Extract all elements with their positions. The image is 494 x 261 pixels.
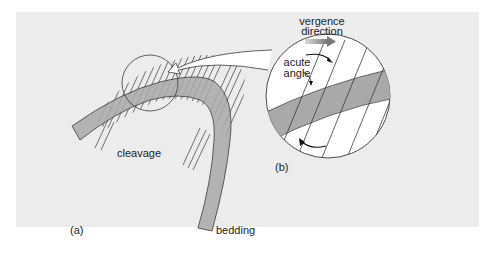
- label-direction: direction: [301, 25, 343, 37]
- fold-cleavage-diagram: vergence direction acute angle cleavage …: [0, 0, 494, 261]
- label-panel-a: (a): [70, 224, 83, 236]
- label-angle: angle: [284, 67, 311, 79]
- label-cleavage: cleavage: [117, 147, 161, 159]
- label-panel-b: (b): [275, 161, 288, 173]
- vergence-arrow-shaft: [305, 39, 327, 44]
- label-bedding: bedding: [216, 224, 255, 236]
